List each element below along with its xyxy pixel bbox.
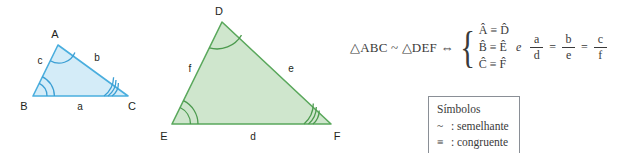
legend-separator: :: [451, 120, 454, 132]
angle-equality-row: B̂ ≡ Ê: [479, 39, 509, 56]
angle-right-2: Ê: [500, 40, 507, 54]
vertex-label-d: D: [215, 5, 223, 17]
side-label-f: f: [189, 63, 192, 74]
fraction-a-over-d: a d: [530, 33, 543, 61]
angle-right-1: D̂: [500, 23, 509, 37]
legend-entry-congruent: ≡ : congruente: [437, 134, 509, 151]
equals-sign-1: =: [549, 40, 556, 55]
fraction-denominator: d: [532, 48, 542, 62]
fraction-numerator: b: [564, 33, 574, 47]
legend-separator: :: [451, 136, 454, 148]
fraction-numerator: a: [532, 33, 541, 47]
equals-sign-2: =: [581, 40, 588, 55]
congruent-icon-3: ≡: [490, 57, 497, 71]
fraction-denominator: f: [596, 48, 604, 62]
triangle-def-shape: [172, 22, 331, 124]
legend-meaning-congruent: congruente: [457, 136, 508, 148]
fraction-b-over-e: b e: [562, 33, 575, 61]
similarity-formula: △ABC ~ △DEF ⇔ { Â ≡ D̂ B̂ ≡ Ê Ĉ ≡ F̂: [350, 22, 611, 73]
congruent-icon-1: ≡: [490, 23, 497, 37]
side-label-c: c: [38, 55, 43, 66]
angle-equality-row: Ĉ ≡ F̂: [479, 56, 509, 73]
angle-left-1: Â: [479, 23, 488, 37]
angle-left-2: B̂: [479, 40, 487, 54]
side-label-d: d: [250, 131, 256, 142]
formula-statement: △ABC ~ △DEF ⇔: [350, 40, 454, 56]
congruent-icon-2: ≡: [490, 40, 497, 54]
fraction-c-over-f: c f: [594, 33, 607, 61]
vertex-label-a: A: [51, 28, 59, 40]
congruent-icon: ≡: [437, 134, 448, 151]
side-label-e: e: [288, 63, 294, 74]
fraction-denominator: e: [564, 48, 573, 62]
vertex-label-f: F: [334, 130, 341, 142]
angle-left-3: Ĉ: [479, 57, 487, 71]
vertex-label-e: E: [160, 130, 167, 142]
formula-brace-group: { Â ≡ D̂ B̂ ≡ Ê Ĉ ≡ F̂: [457, 22, 509, 73]
symbols-legend: Símbolos ~ : semelhante ≡ : congruente: [428, 96, 520, 153]
tilde-icon: ~: [437, 118, 448, 135]
triangle-def: D E F d e f: [160, 5, 340, 142]
angle-equality-row: Â ≡ D̂: [479, 22, 509, 39]
triangle-abc: A B C a b c: [20, 28, 136, 112]
legend-title: Símbolos: [437, 101, 509, 118]
figure-canvas: A B C a b c: [0, 0, 623, 153]
fraction-numerator: c: [596, 33, 605, 47]
formula-conjunction: e: [516, 40, 521, 55]
side-ratios: a d = b e = c f: [526, 33, 611, 61]
vertex-label-c: C: [128, 100, 136, 112]
side-label-b: b: [94, 52, 100, 63]
angle-right-3: F̂: [500, 57, 507, 71]
angle-equalities: Â ≡ D̂ B̂ ≡ Ê Ĉ ≡ F̂: [479, 22, 509, 73]
legend-meaning-similar: semelhante: [457, 120, 509, 132]
vertex-label-b: B: [20, 100, 27, 112]
legend-entry-similar: ~ : semelhante: [437, 118, 509, 135]
side-label-a: a: [77, 101, 83, 112]
